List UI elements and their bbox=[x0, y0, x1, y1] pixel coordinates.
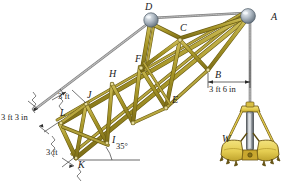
joint-label-F: F bbox=[135, 54, 141, 64]
pulley-a bbox=[241, 9, 256, 24]
joint-label-E: E bbox=[172, 95, 178, 105]
joint-label-C: C bbox=[180, 23, 187, 33]
load-label-W: W bbox=[222, 134, 230, 144]
dimension-label-3ft-3in: 3 ft 3 in bbox=[1, 113, 28, 122]
pulley-d bbox=[144, 13, 158, 27]
angle-label-35deg: 35° bbox=[116, 142, 128, 151]
joint-label-J: J bbox=[87, 90, 91, 100]
dimension-label-3ft-top: 3 ft bbox=[58, 92, 70, 101]
joint-label-D: D bbox=[145, 2, 152, 12]
joint-label-L: L bbox=[60, 108, 66, 118]
joint-label-B: B bbox=[215, 70, 221, 80]
dimension-label-3ft-6in: 3 ft 6 in bbox=[209, 85, 236, 94]
member-mast-dc bbox=[152, 24, 180, 38]
joint-label-K: K bbox=[78, 160, 85, 170]
cable-d-to-a bbox=[152, 13, 245, 18]
truss-diagram-svg bbox=[0, 0, 287, 191]
dimension-label-3ft-bottom: 3 ft bbox=[46, 148, 58, 157]
figure-canvas: A B C D E F H I J K L W 3 ft 3 ft 3 in 3… bbox=[0, 0, 287, 191]
cable-d-to-anchor bbox=[34, 22, 150, 110]
joint-label-I: I bbox=[112, 135, 115, 145]
joint-label-A: A bbox=[271, 12, 277, 22]
joint-label-H: H bbox=[109, 69, 116, 79]
